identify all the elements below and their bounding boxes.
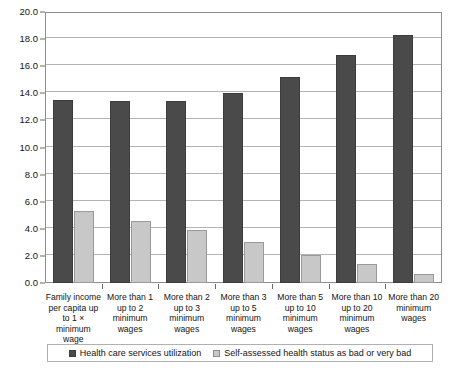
x-axis: Family income per capita up to 1 × minim… (45, 284, 442, 342)
y-axis-tick-label: 18.0 (20, 34, 39, 44)
legend: Health care services utilizationSelf-ass… (47, 344, 433, 362)
legend-label: Health care services utilization (80, 349, 202, 358)
legend-swatch-icon (69, 350, 76, 357)
x-axis-category-label: More than 1 up to 2 minimum wages (102, 292, 159, 334)
y-axis: 0.02.04.06.08.010.012.014.016.018.020.0 (0, 12, 45, 283)
bar-group (45, 12, 102, 283)
y-axis-tick-label: 8.0 (25, 170, 38, 180)
bar-utilization (336, 55, 356, 283)
x-axis-tick-mark (215, 284, 216, 289)
bar-utilization (280, 77, 300, 283)
x-axis-category-label: More than 20 minimum wages (385, 292, 442, 324)
y-axis-tick-label: 10.0 (20, 143, 39, 153)
y-axis-tick-label: 12.0 (20, 116, 39, 126)
x-axis-tick-mark (102, 284, 103, 289)
bar-group (385, 12, 442, 283)
legend-swatch-icon (213, 350, 220, 357)
bar-group (158, 12, 215, 283)
bar-bad-health (301, 255, 321, 283)
y-axis-tick-label: 2.0 (25, 251, 38, 261)
bar-bad-health (74, 211, 94, 283)
x-axis-tick-mark (272, 284, 273, 289)
x-axis-category-label: More than 3 up to 5 minimum wages (215, 292, 272, 334)
x-axis-tick-mark (385, 284, 386, 289)
bar-utilization (393, 35, 413, 283)
bar-group (215, 12, 272, 283)
legend-entry: Self-assessed health status as bad or ve… (213, 349, 411, 358)
x-axis-category-label: Family income per capita up to 1 × minim… (45, 292, 102, 345)
bar-chart: 0.02.04.06.08.010.012.014.016.018.020.0 … (0, 0, 450, 370)
bar-utilization (166, 101, 186, 283)
x-axis-tick-mark (158, 284, 159, 289)
x-axis-tick-mark (329, 284, 330, 289)
y-axis-tick-label: 6.0 (25, 197, 38, 207)
bar-utilization (53, 100, 73, 283)
y-axis-tick-label: 20.0 (20, 7, 39, 17)
x-axis-category-label: More than 5 up to 10 minimum wages (272, 292, 329, 334)
bar-group (329, 12, 386, 283)
bar-group (102, 12, 159, 283)
bar-bad-health (131, 221, 151, 283)
bar-bad-health (187, 230, 207, 283)
bar-bad-health (357, 264, 377, 283)
legend-entry: Health care services utilization (69, 349, 202, 358)
y-axis-tick-label: 14.0 (20, 89, 39, 99)
bar-bad-health (244, 242, 264, 283)
x-axis-category-label: More than 2 up to 3 minimum wages (158, 292, 215, 334)
bar-bad-health (414, 274, 434, 283)
bars-layer (45, 12, 442, 283)
y-axis-tick-label: 4.0 (25, 224, 38, 234)
bar-group (272, 12, 329, 283)
bar-utilization (223, 93, 243, 283)
x-axis-category-label: More than 10 up to 20 minimum wages (329, 292, 386, 334)
legend-label: Self-assessed health status as bad or ve… (224, 349, 411, 358)
y-axis-tick-label: 0.0 (25, 278, 38, 288)
y-axis-tick-label: 16.0 (20, 61, 39, 71)
bar-utilization (110, 101, 130, 283)
